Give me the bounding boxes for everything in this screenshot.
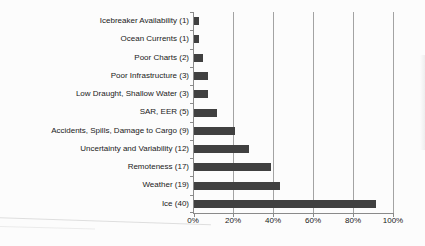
category-label: Uncertainty and Variability (12) bbox=[0, 140, 189, 158]
y-axis-tick bbox=[190, 195, 193, 196]
gridline bbox=[353, 12, 354, 213]
category-label: Remoteness (17) bbox=[0, 158, 189, 176]
y-axis-tick bbox=[190, 212, 193, 213]
bar bbox=[194, 182, 280, 190]
bar bbox=[194, 109, 217, 117]
bar bbox=[194, 72, 208, 80]
x-tick-label: 80% bbox=[334, 216, 372, 225]
scan-artifact bbox=[420, 55, 425, 150]
y-axis-tick bbox=[190, 140, 193, 141]
bar bbox=[194, 163, 271, 171]
y-axis-tick bbox=[190, 85, 193, 86]
gridline bbox=[313, 12, 314, 213]
bar-chart-figure: Icebreaker Availability (1)Ocean Current… bbox=[0, 0, 425, 246]
bar bbox=[194, 35, 199, 43]
category-label: Icebreaker Availability (1) bbox=[0, 12, 189, 30]
y-axis-tick bbox=[190, 103, 193, 104]
bar bbox=[194, 90, 208, 98]
y-axis-tick bbox=[190, 30, 193, 31]
gridline bbox=[393, 12, 394, 213]
category-label: Poor Charts (2) bbox=[0, 49, 189, 67]
category-label: Accidents, Spills, Damage to Cargo (9) bbox=[0, 122, 189, 140]
y-axis-tick bbox=[190, 49, 193, 50]
y-axis-tick bbox=[190, 176, 193, 177]
bar bbox=[194, 145, 249, 153]
bar bbox=[194, 200, 376, 208]
category-labels: Icebreaker Availability (1)Ocean Current… bbox=[0, 12, 189, 213]
x-tick-label: 100% bbox=[374, 216, 412, 225]
scan-artifact bbox=[0, 226, 95, 229]
category-label: SAR, EER (5) bbox=[0, 103, 189, 121]
plot-area bbox=[193, 12, 394, 214]
x-axis-labels: 0%20%40%60%80%100% bbox=[193, 216, 394, 228]
bar bbox=[194, 127, 235, 135]
category-label: Low Draught, Shallow Water (3) bbox=[0, 85, 189, 103]
bar bbox=[194, 54, 203, 62]
x-tick-label: 40% bbox=[254, 216, 292, 225]
y-axis-tick bbox=[190, 158, 193, 159]
y-axis-tick bbox=[190, 67, 193, 68]
bar bbox=[194, 17, 199, 25]
category-label: Ice (40) bbox=[0, 195, 189, 213]
y-axis-tick bbox=[190, 12, 193, 13]
y-axis-tick bbox=[190, 122, 193, 123]
category-label: Weather (19) bbox=[0, 176, 189, 194]
x-tick-label: 60% bbox=[294, 216, 332, 225]
category-label: Poor Infrastructure (3) bbox=[0, 67, 189, 85]
x-tick-label: 20% bbox=[214, 216, 252, 225]
category-label: Ocean Currents (1) bbox=[0, 30, 189, 48]
